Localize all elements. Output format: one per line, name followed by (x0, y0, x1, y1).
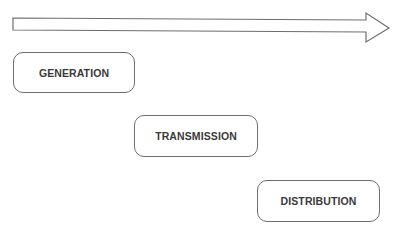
stage-label-transmission: TRANSMISSION (155, 130, 237, 142)
stage-transmission: TRANSMISSION (134, 115, 258, 157)
stage-label-distribution: DISTRIBUTION (281, 195, 357, 207)
stage-label-generation: GENERATION (39, 67, 109, 79)
stage-distribution: DISTRIBUTION (257, 180, 380, 222)
stage-generation: GENERATION (13, 52, 135, 93)
diagram-canvas: GENERATION TRANSMISSION DISTRIBUTION (0, 0, 396, 232)
